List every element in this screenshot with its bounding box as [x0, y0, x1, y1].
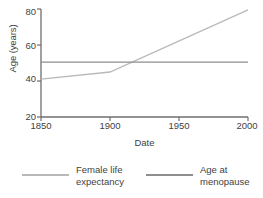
legend-label-line-2: expectancy: [76, 176, 142, 188]
series-line-0: [41, 10, 248, 79]
legend-label-line-1: Age at: [200, 164, 263, 176]
legend-swatch-female-life-expectancy: [22, 174, 69, 176]
legend-label-age-at-menopause: Age at menopause: [200, 164, 263, 187]
chart-figure: Age (years) Date 80 60 40 20 1850 1900 1…: [0, 0, 263, 198]
legend-label-female-life-expectancy: Female life expectancy: [76, 164, 142, 187]
chart-legend: Female life expectancy Age at menopause: [0, 163, 263, 198]
data-series-lines: [41, 10, 248, 79]
legend-label-line-1: Female life: [76, 164, 142, 176]
legend-label-line-2: menopause: [200, 176, 263, 188]
legend-swatch-age-at-menopause: [146, 174, 193, 176]
axis-lines: [41, 9, 248, 117]
